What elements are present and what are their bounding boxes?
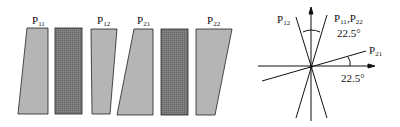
label-p22: P22 [207,14,221,28]
hatched-panel-2 [161,29,188,115]
label-p21: P21 [137,14,151,28]
label-p11: P11 [32,14,45,28]
prism-p11 [18,28,48,114]
prism-p12 [91,29,117,114]
label-axis-p12: P12 [277,13,291,27]
angle-label-top: 22.5° [337,27,361,39]
label-p12: P12 [97,14,111,28]
prism-p22 [196,29,232,115]
angle-label-right: 22.5° [341,72,365,84]
hatched-panel-1 [55,28,82,114]
label-axis-p21: P21 [369,44,383,58]
prism-p21 [117,29,153,115]
label-axis-p11-p22: P11,P22 [334,12,363,26]
polarizer-diagram: P11 P12 P21 P22 P12 P11,P22 22.5° P21 22… [0,0,400,127]
